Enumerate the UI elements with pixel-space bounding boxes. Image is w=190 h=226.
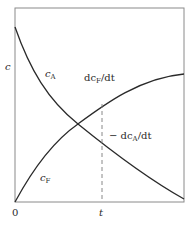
- t-axis-label: t: [99, 208, 103, 218]
- origin-label: 0: [12, 208, 18, 218]
- label-dcF-dt: dcF/dt: [84, 73, 115, 85]
- label-minus-dcA-dt: − dcA/dt: [109, 131, 151, 143]
- y-axis-label: c: [5, 62, 11, 72]
- label-cF: cF: [40, 173, 50, 185]
- kinetics-figure: [0, 0, 190, 226]
- label-cA: cA: [45, 69, 56, 81]
